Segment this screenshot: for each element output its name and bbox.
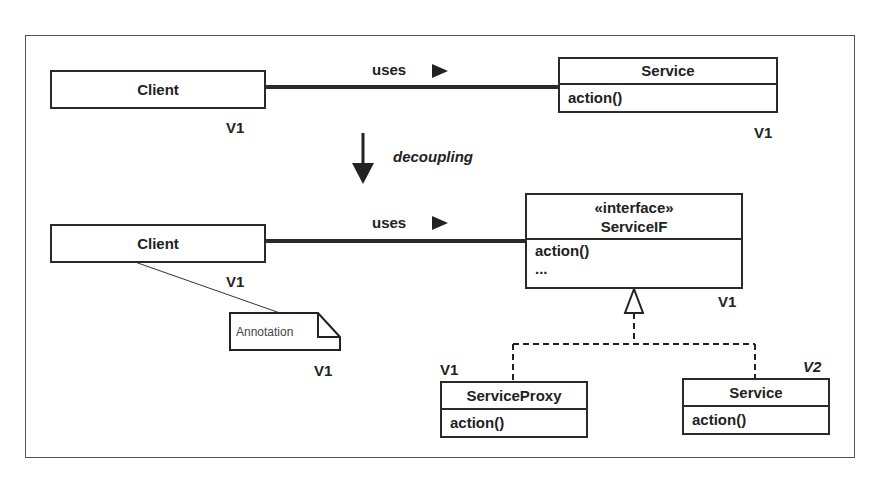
top-service-version: V1 <box>754 124 772 141</box>
proxy-name: ServiceProxy <box>442 383 586 408</box>
service-v2-operation: action() <box>684 407 828 433</box>
decoupling-arrow-icon <box>352 163 374 184</box>
bottom-client-class[interactable]: Client <box>50 224 266 263</box>
realization-triangle-icon <box>625 289 643 313</box>
top-client-version: V1 <box>226 119 244 136</box>
decoupling-label: decoupling <box>393 148 473 165</box>
proxy-version: V1 <box>440 361 458 378</box>
interface-stereotype: «interface» <box>527 195 741 217</box>
annotation-text: Annotation <box>236 325 293 339</box>
service-interface-class[interactable]: «interface» ServiceIF action() ... <box>525 193 743 289</box>
interface-name: ServiceIF <box>527 217 741 238</box>
service-proxy-class[interactable]: ServiceProxy action() <box>440 381 588 438</box>
top-client-class[interactable]: Client <box>50 70 266 109</box>
bottom-uses-label: uses <box>372 214 406 231</box>
service-v2-version: V2 <box>803 358 821 375</box>
bottom-uses-direction-icon <box>432 216 448 230</box>
interface-more-operations: ... <box>527 262 741 276</box>
bottom-client-version: V1 <box>226 273 244 290</box>
top-uses-direction-icon <box>432 64 448 78</box>
top-service-name: Service <box>560 59 776 83</box>
service-v2-class[interactable]: Service action() <box>682 378 830 435</box>
annotation-version: V1 <box>314 362 332 379</box>
top-uses-label: uses <box>372 61 406 78</box>
realization-dashed-lines <box>513 313 755 381</box>
interface-operation: action() <box>527 240 741 262</box>
proxy-operation: action() <box>442 410 586 436</box>
top-service-class[interactable]: Service action() <box>558 57 778 113</box>
annotation-link-line <box>135 262 280 313</box>
top-client-name: Client <box>52 72 264 107</box>
interface-version: V1 <box>718 293 736 310</box>
service-v2-name: Service <box>684 380 828 405</box>
bottom-client-name: Client <box>52 226 264 261</box>
top-service-operation: action() <box>560 85 776 111</box>
